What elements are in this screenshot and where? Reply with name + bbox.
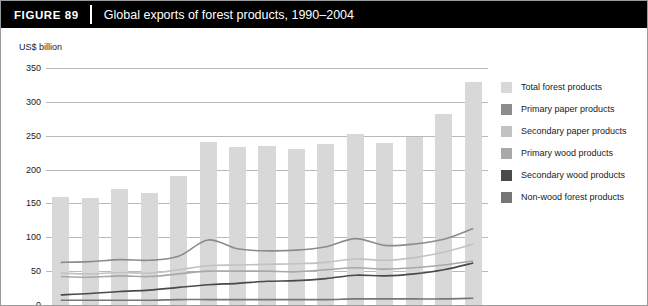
legend-item[interactable]: Primary paper products — [501, 102, 643, 116]
figure-header: FIGURE 89 Global exports of forest produ… — [1, 1, 648, 28]
line-non-wood-forest-products — [61, 298, 474, 300]
y-tick-label: 0 — [11, 300, 41, 306]
y-axis-ticks: 050100150200250300350 — [11, 68, 43, 305]
legend-item[interactable]: Secondary wood products — [501, 168, 643, 182]
legend-item[interactable]: Secondary paper products — [501, 124, 643, 138]
legend-item[interactable]: Total forest products — [501, 80, 643, 94]
legend-swatch-icon — [501, 148, 512, 159]
legend-item[interactable]: Primary wood products — [501, 146, 643, 160]
legend-swatch-icon — [501, 170, 512, 181]
legend-swatch-icon — [501, 104, 512, 115]
legend-swatch-icon — [501, 192, 512, 203]
legend-label: Secondary wood products — [521, 170, 625, 180]
legend-label: Total forest products — [521, 82, 602, 92]
y-tick-label: 100 — [11, 232, 41, 242]
plot-area — [46, 68, 488, 305]
figure-panel: FIGURE 89 Global exports of forest produ… — [0, 0, 648, 306]
line-series-layer — [46, 68, 488, 305]
legend-label: Primary paper products — [521, 104, 615, 114]
figure-body: US$ billion 050100150200250300350 199019… — [1, 28, 647, 305]
y-tick-label: 150 — [11, 198, 41, 208]
chart-legend: Total forest productsPrimary paper produ… — [501, 80, 643, 212]
legend-item[interactable]: Non-wood forest products — [501, 190, 643, 204]
legend-label: Non-wood forest products — [521, 192, 624, 202]
figure-title: Global exports of forest products, 1990–… — [92, 8, 354, 22]
y-tick-label: 50 — [11, 266, 41, 276]
legend-swatch-icon — [501, 82, 512, 93]
y-tick-label: 350 — [11, 63, 41, 73]
legend-swatch-icon — [501, 126, 512, 137]
y-axis-title: US$ billion — [19, 42, 62, 52]
y-tick-label: 250 — [11, 131, 41, 141]
legend-label: Secondary paper products — [521, 126, 627, 136]
y-tick-label: 200 — [11, 165, 41, 175]
y-tick-label: 300 — [11, 97, 41, 107]
figure-number: FIGURE 89 — [1, 9, 90, 21]
legend-label: Primary wood products — [521, 148, 613, 158]
